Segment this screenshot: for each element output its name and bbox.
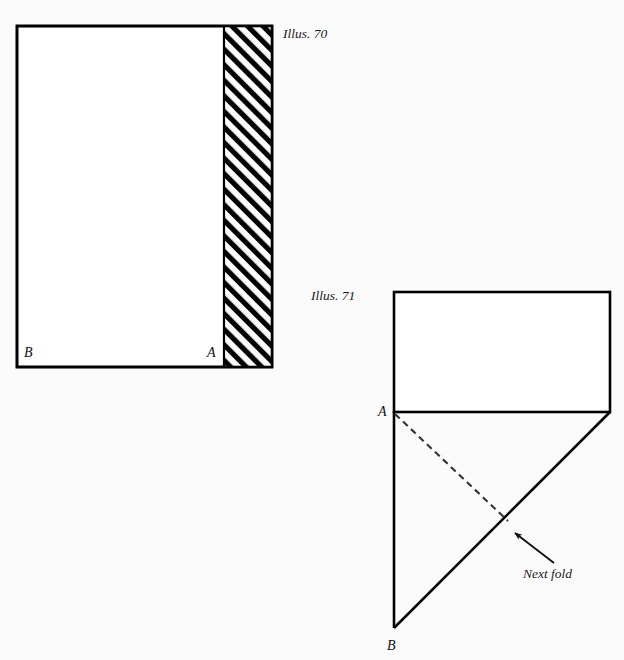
illus71-caption: Illus. 71 — [310, 288, 355, 303]
figure-illus-71: Illus. 71 A B Next fold — [310, 288, 610, 653]
illus70-point-label-a: A — [206, 345, 216, 360]
figures-canvas: B A Illus. 70 Illus. 71 A B Next fold — [0, 0, 624, 660]
illus71-next-fold-dashed-line — [395, 414, 508, 521]
illus70-caption: Illus. 70 — [282, 26, 328, 41]
illus71-folded-sheet-outline — [394, 292, 610, 412]
illus71-next-fold-arrow — [515, 533, 554, 563]
illus71-diagonal-fold-edge — [394, 412, 610, 628]
illus71-point-label-a: A — [377, 404, 387, 419]
illus70-point-label-b: B — [24, 345, 33, 360]
illustration-page: B A Illus. 70 Illus. 71 A B Next fold — [0, 0, 624, 660]
figure-illus-70: B A Illus. 70 — [17, 26, 328, 367]
illus71-point-label-b: B — [387, 638, 396, 653]
illus71-next-fold-annotation: Next fold — [522, 566, 572, 581]
illus70-hatched-fold-band — [224, 26, 272, 367]
